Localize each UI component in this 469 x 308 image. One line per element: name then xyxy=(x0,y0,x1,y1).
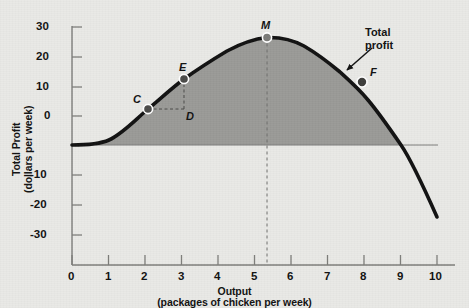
y-tick-label-10: 10 xyxy=(36,80,49,92)
point-label-c: C xyxy=(133,93,141,105)
x-tick-label-7: 7 xyxy=(324,270,330,282)
y-tick-label-30: 30 xyxy=(36,20,49,32)
x-tick-label-1: 1 xyxy=(105,270,111,282)
point-label-f: F xyxy=(370,66,377,78)
marker-point-e xyxy=(179,74,188,83)
figure-panel-b: Total Profit (dollars per week) 30 20 10… xyxy=(0,0,469,308)
point-label-m: M xyxy=(261,19,270,31)
x-axis-title-line2: (packages of chicken per week) xyxy=(157,296,312,308)
y-tick-label-n20: -20 xyxy=(30,198,47,210)
profit-curve-chart xyxy=(0,0,469,308)
x-tick-label-4: 4 xyxy=(214,270,220,282)
point-label-e: E xyxy=(179,61,186,73)
y-tick-label-n30: -30 xyxy=(30,228,47,240)
x-tick-label-6: 6 xyxy=(287,270,293,282)
marker-point-c xyxy=(143,104,152,113)
x-tick-label-5: 5 xyxy=(251,270,257,282)
y-tick-label-n10: -10 xyxy=(30,168,47,180)
x-axis-subtitle: (packages of chicken per week) xyxy=(0,296,469,308)
y-axis-ticks xyxy=(72,27,82,235)
total-profit-annotation: Total profit xyxy=(365,26,393,51)
x-tick-label-8: 8 xyxy=(360,270,366,282)
total-profit-annotation-line2: profit xyxy=(365,39,393,52)
y-tick-label-20: 20 xyxy=(36,50,49,62)
total-profit-annotation-line1: Total xyxy=(365,26,393,39)
y-axis-title-line1: Total Profit xyxy=(11,106,23,193)
point-label-d: D xyxy=(186,110,194,122)
x-tick-label-0: 0 xyxy=(68,270,74,282)
x-tick-label-2: 2 xyxy=(141,270,147,282)
x-axis-ticks xyxy=(72,255,437,265)
marker-point-m xyxy=(262,33,271,42)
total-profit-arrow-icon xyxy=(347,48,372,70)
profit-area-fill xyxy=(72,37,401,145)
x-tick-label-3: 3 xyxy=(178,270,184,282)
y-tick-label-0: 0 xyxy=(44,109,50,121)
marker-point-f xyxy=(357,77,367,87)
x-tick-label-10: 10 xyxy=(429,270,442,282)
x-tick-label-9: 9 xyxy=(397,270,403,282)
